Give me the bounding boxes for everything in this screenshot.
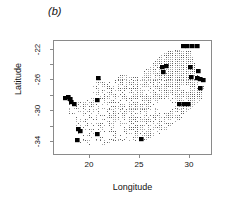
panel-label: (b) [48,5,61,17]
y-tick-label-1: -26 [33,69,42,91]
y-tick-label-0: -22 [33,39,42,61]
y-tick-label-2: -30 [33,100,42,122]
x-tick-mark-1 [139,155,140,158]
x-tick-mark-2 [189,155,190,158]
x-axis-title: Longitude [53,182,212,192]
x-tick-label-2: 30 [178,160,200,169]
plot-area [53,40,212,155]
distribution-scatter-canvas [54,41,211,154]
x-tick-label-0: 20 [78,160,100,169]
distribution-map-figure: (b) Latitude -22 -26 -30 -34 20 25 30 Lo… [0,0,231,205]
x-tick-label-1: 25 [128,160,150,169]
y-axis-title: Latitude [13,39,23,119]
x-tick-mark-0 [89,155,90,158]
y-tick-label-3: -34 [33,131,42,153]
